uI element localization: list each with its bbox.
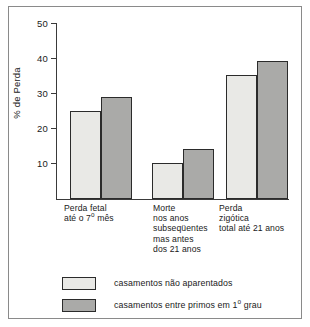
legend-swatch-icon-light [62,277,96,290]
chart-figure: % de Perda 5040302010 Perda fetalaté o 7… [0,0,310,327]
y-tick-mark-50 [51,23,56,24]
legend-label-nao-aparentados: casamentos não aparentados [114,278,233,288]
x-axis-category-label-0: Perda fetalaté o 7o mês [64,203,150,223]
y-tick-label-20: 20 [24,124,48,134]
x-axis-line [56,199,289,200]
bar-morte-nao-aparentados [152,163,183,198]
bar-zigotica-nao-aparentados [226,75,257,199]
y-tick-label-30: 30 [24,89,48,99]
y-tick-mark-20 [51,128,56,129]
legend-item-nao-aparentados: casamentos não aparentados [62,272,302,294]
y-tick-label-40: 40 [24,54,48,64]
bar-zigotica-primos [257,61,288,199]
y-tick-mark-10 [51,163,56,164]
chart-legend: casamentos não aparentados casamentos en… [62,272,302,316]
plot-area: % de Perda 5040302010 Perda fetalaté o 7… [0,0,310,327]
y-axis-line [56,23,57,200]
bar-morte-primos [183,149,214,199]
y-axis-title: % de Perda [12,58,22,128]
bar-perda-fetal-primos [101,97,132,199]
y-tick-label-10: 10 [24,159,48,169]
legend-label-primos-1-grau: casamentos entre primos em 1o grau [114,300,262,310]
x-axis-category-label-2: Perdazigóticatotal até 21 anos [219,203,305,234]
bar-perda-fetal-nao-aparentados [70,111,101,199]
y-tick-mark-30 [51,93,56,94]
legend-swatch-icon-dark [62,299,96,312]
y-tick-mark-40 [51,58,56,59]
legend-item-primos-1-grau: casamentos entre primos em 1o grau [62,294,302,316]
y-tick-label-50: 50 [24,19,48,29]
